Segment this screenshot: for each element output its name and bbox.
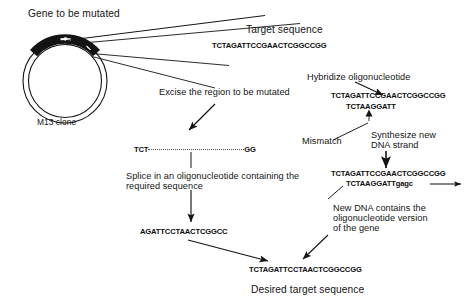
label-splice-line2: required sequence xyxy=(126,181,203,191)
sequence-synthesized-top: TCTAGATTCCGAACTCGGCCGG xyxy=(331,170,446,179)
arrow-new-dna-to-final xyxy=(303,235,328,259)
sequence-target: TCTAGATTCCGAACTCGGCCGG xyxy=(212,42,327,51)
excised-prefix: TCT xyxy=(134,145,148,154)
sequence-synthesized-bottom: TCTAAGGATTgagc xyxy=(346,180,413,189)
arrow-excise xyxy=(189,104,215,130)
sequence-hybridized-oligo: TCTAAGGATT xyxy=(346,103,396,112)
label-new-dna-line1: New DNA contains the xyxy=(333,203,426,213)
label-desired-target-sequence: Desired target sequence xyxy=(251,284,364,295)
sequence-spliced-oligo: AGATTCCTAACTCGGCC xyxy=(140,228,227,237)
label-mismatch: Mismatch xyxy=(302,136,342,146)
mutagenesis-diagram: Gene to be mutated M13 clone Target sequ… xyxy=(0,0,475,307)
label-synthesize-new-dna-strand-line2: DNA strand xyxy=(371,140,418,150)
label-new-dna-line2: oligonucleotide version xyxy=(333,213,428,223)
label-splice-line1: Splice in an oligonucleotide containing … xyxy=(126,171,299,181)
m13-plasmid-circle xyxy=(23,37,107,123)
leader-new-dna-up xyxy=(328,186,343,199)
label-new-dna-line3: of the gene xyxy=(333,223,380,233)
label-excise-region: Excise the region to be mutated xyxy=(159,87,290,97)
sequence-excised-fragment: TCTGG xyxy=(134,138,256,156)
label-hybridize-oligonucleotide: Hybridize oligonucleotide xyxy=(307,72,410,82)
label-m13-clone: M13 clone xyxy=(37,118,76,127)
arrow-spliced-to-final xyxy=(188,240,268,261)
sequence-hybridized-top: TCTAGATTCCGAACTCGGCCGG xyxy=(331,92,446,101)
label-synthesize-new-dna-strand-line1: Synthesize new xyxy=(371,130,436,140)
sequence-final-product: TCTAGATTCCTAACTCGGCCGG xyxy=(249,266,362,275)
label-gene-to-be-mutated: Gene to be mutated xyxy=(28,8,120,19)
excised-dot-gap xyxy=(148,149,244,150)
label-target-sequence: Target sequence xyxy=(246,24,323,35)
excised-suffix: GG xyxy=(244,145,256,154)
